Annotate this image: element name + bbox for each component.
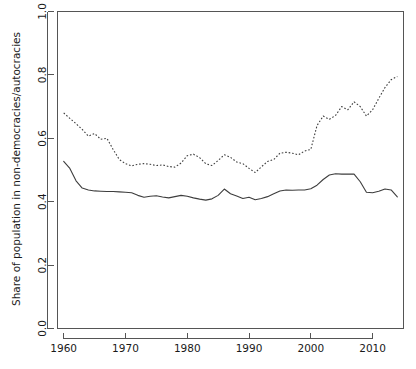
y-axis-tick-label: 0.6 [36,130,48,147]
y-axis-tick-label: 0.2 [36,257,48,274]
chart-figure: 0.00.20.40.60.81.0 196019701980199020002… [0,0,416,369]
x-axis-tick-label: 2000 [297,342,324,354]
line-chart: 0.00.20.40.60.81.0 196019701980199020002… [0,0,416,369]
x-axis-tick-label: 1980 [174,342,201,354]
x-axis-tick-label: 1970 [112,342,139,354]
y-axis-tick-label: 0.4 [36,193,48,210]
y-axis-tick-label: 0.8 [36,67,48,84]
y-axis-tick-label: 1.0 [36,3,48,20]
x-axis-tick-label: 2010 [359,342,386,354]
chart-background [0,0,416,369]
x-axis-tick-label: 1990 [236,342,263,354]
y-axis-title: Share of population in non-democracies/a… [10,32,22,306]
x-axis-tick-label: 1960 [50,342,77,354]
y-axis-tick-label: 0.0 [36,320,48,337]
